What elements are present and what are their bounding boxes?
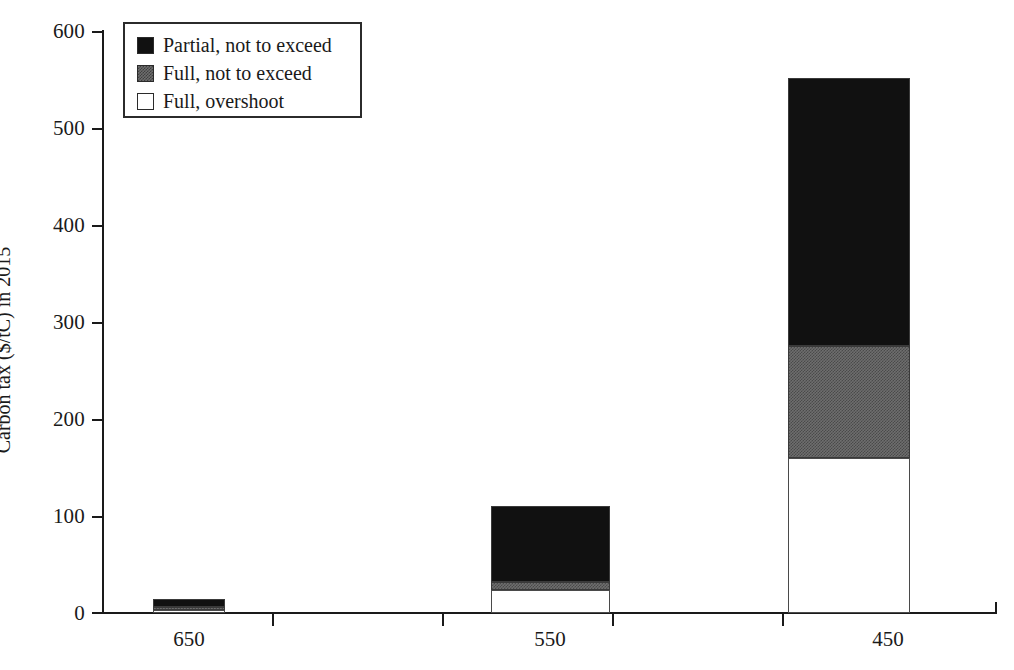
x-tick-label-450: 450 [828, 628, 948, 650]
y-tick-300 [92, 322, 103, 324]
y-tick-label-100: 100 [15, 506, 85, 527]
bar-550-segment-full-not-to-exceed[interactable] [491, 582, 610, 590]
carbon-tax-stacked-bar-chart: Carbon tax ($/tC) in 2015 600 500 400 30… [0, 0, 1014, 670]
x-tick-4 [782, 614, 784, 626]
bar-650[interactable] [153, 31, 225, 613]
legend-item-partial-not-to-exceed[interactable]: Partial, not to exceed [137, 31, 350, 59]
x-tick-3 [612, 614, 614, 626]
y-tick-label-300: 300 [15, 312, 85, 333]
y-tick-100 [92, 516, 103, 518]
bar-450-segment-full-not-to-exceed[interactable] [788, 346, 910, 459]
bar-450-segment-full-overshoot[interactable] [788, 458, 910, 613]
y-tick-200 [92, 419, 103, 421]
y-tick-label-200: 200 [15, 409, 85, 430]
legend-item-full-not-to-exceed[interactable]: Full, not to exceed [137, 59, 350, 87]
black-swatch-icon [137, 37, 154, 54]
legend-label-partial-not-to-exceed: Partial, not to exceed [163, 35, 332, 55]
x-tick-1 [272, 614, 274, 626]
y-tick-600 [92, 31, 103, 33]
y-tick-label-600: 600 [15, 21, 85, 42]
y-axis-tick-labels: 600 500 400 300 200 100 0 [0, 0, 103, 670]
legend-item-full-overshoot[interactable]: Full, overshoot [137, 87, 350, 115]
y-tick-label-400: 400 [15, 215, 85, 236]
y-tick-500 [92, 128, 103, 130]
y-tick-400 [92, 225, 103, 227]
bar-550-segment-partial-not-to-exceed[interactable] [491, 506, 610, 582]
legend-label-full-overshoot: Full, overshoot [163, 91, 284, 111]
y-tick-label-0: 0 [15, 603, 85, 624]
x-tick-2 [442, 614, 444, 626]
x-tick-label-550: 550 [490, 628, 610, 650]
gray-swatch-icon [137, 65, 154, 82]
x-tick-label-650: 650 [129, 628, 249, 650]
x-tick-right-end [995, 602, 997, 614]
x-tick-left-end [102, 602, 104, 614]
bar-550-segment-full-overshoot[interactable] [491, 590, 610, 613]
bar-550[interactable] [491, 31, 610, 613]
bar-650-segment-partial-not-to-exceed[interactable] [153, 599, 225, 607]
plot-area [103, 31, 997, 613]
bar-650-segment-full-overshoot[interactable] [153, 610, 225, 613]
white-swatch-icon [137, 93, 154, 110]
legend-label-full-not-to-exceed: Full, not to exceed [163, 63, 312, 83]
y-tick-label-500: 500 [15, 118, 85, 139]
legend: Partial, not to exceed Full, not to exce… [123, 22, 362, 118]
bar-450-segment-partial-not-to-exceed[interactable] [788, 78, 910, 346]
bar-450[interactable] [788, 31, 910, 613]
